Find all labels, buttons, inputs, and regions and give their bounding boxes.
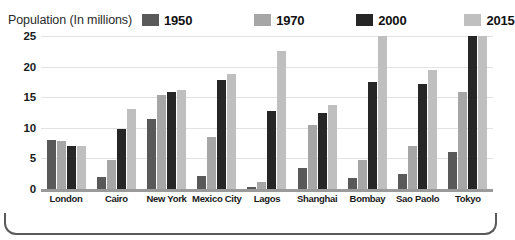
legend-swatch-1970 [254, 14, 271, 26]
bar-group-new-york [141, 36, 191, 189]
bar-tokyo-1970[interactable] [458, 92, 467, 189]
legend-title: Population (In millions) [8, 13, 132, 27]
y-axis: 2520151050 [10, 36, 36, 191]
bar-group-mexico-city [192, 36, 242, 189]
bar-group-tokyo [443, 36, 493, 189]
bar-shanghai-2000[interactable] [318, 113, 327, 190]
bar-new-york-1970[interactable] [157, 95, 166, 189]
y-axis-tick-20: 20 [10, 61, 36, 73]
legend-label-2015: 2015 [486, 13, 514, 28]
bar-shanghai-2015[interactable] [328, 105, 337, 189]
legend-entry-2000[interactable]: 2000 [356, 13, 406, 28]
legend-swatch-2015 [464, 14, 481, 26]
bar-shanghai-1950[interactable] [298, 168, 307, 189]
bar-mexico-city-1970[interactable] [207, 137, 216, 189]
bar-cairo-2015[interactable] [127, 109, 136, 189]
x-axis-label-mexico-city: Mexico City [192, 193, 242, 204]
bar-shanghai-1970[interactable] [308, 125, 317, 189]
bar-lagos-2000[interactable] [267, 111, 276, 189]
bar-lagos-1970[interactable] [257, 182, 266, 189]
legend-swatch-2000 [356, 14, 373, 26]
legend-entry-1950[interactable]: 1950 [142, 13, 192, 28]
plot-area: 2520151050 LondonCairoNew YorkMexico Cit… [0, 36, 501, 211]
legend-label-2000: 2000 [378, 13, 406, 28]
bar-group-sao-paolo [393, 36, 443, 189]
bar-group-shanghai [292, 36, 342, 189]
bar-london-1950[interactable] [47, 140, 56, 189]
y-axis-tick-0: 0 [10, 183, 36, 195]
bar-tokyo-2000[interactable] [468, 36, 477, 189]
bar-group-lagos [242, 36, 292, 189]
x-axis-label-new-york: New York [141, 193, 191, 204]
bar-bombay-1950[interactable] [348, 178, 357, 189]
x-axis-labels: LondonCairoNew YorkMexico CityLagosShang… [41, 193, 493, 204]
y-axis-tick-25: 25 [10, 30, 36, 42]
x-axis-label-tokyo: Tokyo [443, 193, 493, 204]
legend-entry-2015[interactable]: 2015 [464, 13, 514, 28]
bar-london-2000[interactable] [67, 146, 76, 189]
bar-sao-paolo-2015[interactable] [428, 70, 437, 189]
bar-london-1970[interactable] [57, 141, 66, 189]
card-bottom-border [4, 213, 497, 235]
legend-swatch-1950 [142, 14, 159, 26]
x-axis-label-bombay: Bombay [342, 193, 392, 204]
bar-group-bombay [342, 36, 392, 189]
y-axis-tick-5: 5 [10, 152, 36, 164]
x-axis-label-cairo: Cairo [91, 193, 141, 204]
bar-group-cairo [91, 36, 141, 189]
x-axis-label-shanghai: Shanghai [292, 193, 342, 204]
bar-lagos-2015[interactable] [277, 51, 286, 189]
bar-sao-paolo-1950[interactable] [398, 174, 407, 189]
bar-mexico-city-2000[interactable] [217, 80, 226, 189]
bar-cairo-1950[interactable] [97, 177, 106, 189]
bar-london-2015[interactable] [77, 146, 86, 189]
y-axis-tick-10: 10 [10, 122, 36, 134]
bars-area [41, 36, 493, 189]
bar-bombay-2015[interactable] [378, 36, 387, 189]
bar-tokyo-1950[interactable] [448, 152, 457, 189]
bar-cairo-1970[interactable] [107, 160, 116, 189]
y-axis-tick-15: 15 [10, 91, 36, 103]
bar-mexico-city-2015[interactable] [227, 74, 236, 189]
bar-sao-paolo-2000[interactable] [418, 84, 427, 189]
x-axis-label-sao-paolo: Sao Paolo [393, 193, 443, 204]
chart-legend: Population (In millions) 195019702000201… [8, 8, 493, 32]
x-axis-label-lagos: Lagos [242, 193, 292, 204]
bar-sao-paolo-1970[interactable] [408, 146, 417, 189]
bar-cairo-2000[interactable] [117, 129, 126, 189]
x-axis-label-london: London [41, 193, 91, 204]
bar-new-york-1950[interactable] [147, 119, 156, 189]
bar-mexico-city-1950[interactable] [197, 176, 206, 189]
bar-new-york-2000[interactable] [167, 92, 176, 189]
legend-entry-1970[interactable]: 1970 [254, 13, 304, 28]
legend-label-1970: 1970 [276, 13, 304, 28]
bar-bombay-1970[interactable] [358, 160, 367, 189]
bar-new-york-2015[interactable] [177, 90, 186, 189]
bar-tokyo-2015[interactable] [478, 36, 487, 189]
bar-bombay-2000[interactable] [368, 82, 377, 189]
x-axis-baseline [41, 189, 493, 192]
bar-group-london [41, 36, 91, 189]
legend-label-1950: 1950 [164, 13, 192, 28]
